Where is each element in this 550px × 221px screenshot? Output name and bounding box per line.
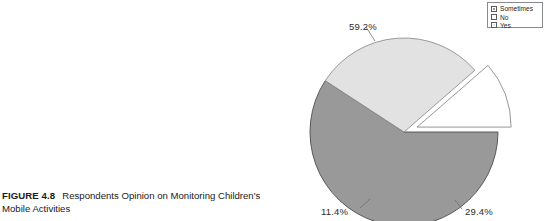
- legend-item-sometimes[interactable]: Sometimes: [491, 5, 542, 13]
- legend-swatch-sometimes-icon: [491, 6, 497, 12]
- figure-number: FIGURE 4.8: [2, 190, 55, 201]
- pie-chart: 59.2% 29.4% 11.4% Sometimes No Yes: [290, 0, 550, 221]
- legend-label-yes: Yes: [500, 22, 511, 29]
- legend-item-yes[interactable]: Yes: [491, 22, 542, 30]
- legend-swatch-yes-icon: [491, 22, 497, 28]
- legend-label-sometimes: Sometimes: [500, 5, 533, 12]
- pie-data-label-sometimes: 59.2%: [349, 22, 377, 32]
- pie-chart-svg: [290, 0, 550, 221]
- legend-item-no[interactable]: No: [491, 13, 542, 21]
- figure-container: 59.2% 29.4% 11.4% Sometimes No Yes: [0, 0, 550, 221]
- chart-legend: Sometimes No Yes: [487, 2, 543, 28]
- pie-data-label-yes: 29.4%: [465, 207, 493, 217]
- legend-swatch-no-icon: [491, 14, 497, 20]
- figure-caption: FIGURE 4.8Respondents Opinion on Monitor…: [2, 190, 288, 215]
- pie-data-label-no: 11.4%: [321, 207, 348, 217]
- legend-label-no: No: [500, 14, 508, 21]
